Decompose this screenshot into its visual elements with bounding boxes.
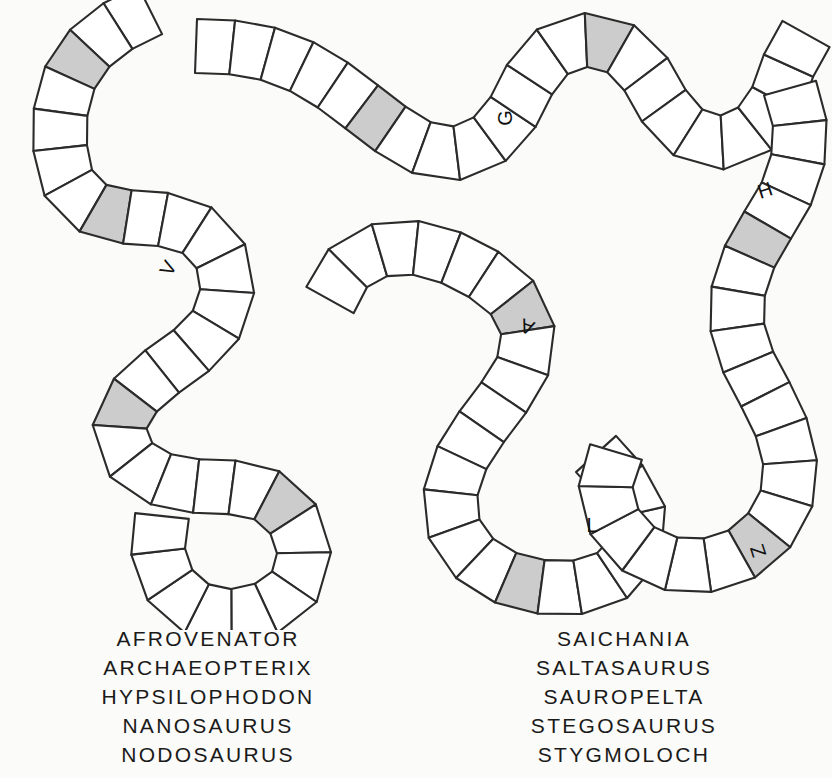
list-item: SAICHANIA xyxy=(557,624,691,653)
track-cell-letter: L xyxy=(586,514,597,536)
puzzle-page: VGHALZ AFROVENATOR ARCHAEOPTERIX HYPSILO… xyxy=(0,0,832,778)
list-item: STYGMOLOCH xyxy=(538,740,710,769)
word-lists: AFROVENATOR ARCHAEOPTERIX HYPSILOPHODON … xyxy=(0,624,832,778)
track-cell-letter: V xyxy=(155,256,181,279)
track-diagram: VGHALZ xyxy=(0,0,832,630)
track-cell[interactable] xyxy=(33,109,87,151)
word-column-right: SAICHANIA SALTASAURUS SAUROPELTA STEGOSA… xyxy=(416,624,832,778)
track-cell[interactable] xyxy=(579,444,642,487)
list-item: AFROVENATOR xyxy=(116,624,299,653)
track-cell-letter: G xyxy=(494,110,516,126)
list-item: STEGOSAURUS xyxy=(531,711,717,740)
track-cells-group xyxy=(33,0,829,630)
list-item: ARCHAEOPTERIX xyxy=(103,653,313,682)
word-column-left: AFROVENATOR ARCHAEOPTERIX HYPSILOPHODON … xyxy=(0,624,416,778)
track-cell[interactable] xyxy=(131,513,189,555)
list-item: HYPSILOPHODON xyxy=(101,682,314,711)
list-item: NANOSAURUS xyxy=(122,711,293,740)
track-cell[interactable] xyxy=(195,19,235,74)
list-item: NODOSAURUS xyxy=(121,740,295,769)
list-item: SAUROPELTA xyxy=(543,682,704,711)
list-item: SALTASAURUS xyxy=(536,653,712,682)
